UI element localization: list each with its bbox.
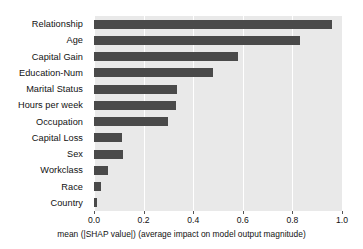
bar [94,182,101,191]
bar [94,117,168,126]
y-axis-tick-label: Race [0,179,88,195]
x-axis-tick-label: 0.6 [237,215,249,225]
y-axis-tick-label: Workclass [0,162,88,178]
bar [94,150,123,159]
x-tick-mark [292,211,293,214]
bar-row [94,195,342,211]
bar-row [94,32,342,48]
y-axis-tick-label: Sex [0,146,88,162]
bar [94,101,176,110]
x-axis-title: mean (|SHAP value|) (average impact on m… [0,229,363,239]
x-axis-tick-label: 0.2 [138,215,150,225]
x-tick-mark [94,211,95,214]
x-axis-tick-label: 0.8 [286,215,298,225]
x-axis-ticks: 0.00.20.40.60.81.0 [94,211,342,227]
plot-area [94,16,342,211]
y-axis-tick-labels: RelationshipAgeCapital GainEducation-Num… [0,16,88,211]
y-axis-tick-label: Capital Gain [0,49,88,65]
bar-row [94,162,342,178]
x-tick-mark [342,211,343,214]
bar-row [94,130,342,146]
y-axis-tick-label: Hours per week [0,97,88,113]
y-axis-tick-label: Relationship [0,16,88,32]
y-axis-tick-label: Capital Loss [0,130,88,146]
y-axis-tick-label: Occupation [0,114,88,130]
bar [94,36,300,45]
y-axis-tick-label: Age [0,32,88,48]
bar-row [94,97,342,113]
x-tick-mark [243,211,244,214]
bar-row [94,179,342,195]
y-axis-tick-label: Marital Status [0,81,88,97]
bar [94,198,97,207]
bar-series [94,16,342,211]
bar [94,52,238,61]
x-axis-tick-label: 0.4 [187,215,199,225]
bar-row [94,49,342,65]
x-tick-mark [193,211,194,214]
bar-row [94,65,342,81]
bar [94,133,122,142]
bar [94,68,213,77]
x-axis-tick-label: 0.0 [88,215,100,225]
bar-row [94,16,342,32]
bar-row [94,146,342,162]
x-tick-mark [144,211,145,214]
shap-feature-importance-chart: RelationshipAgeCapital GainEducation-Num… [0,0,363,249]
bar-row [94,81,342,97]
x-axis-tick-label: 1.0 [336,215,348,225]
bar [94,166,108,175]
y-axis-tick-label: Education-Num [0,65,88,81]
bar [94,85,177,94]
y-axis-tick-label: Country [0,195,88,211]
bar-row [94,114,342,130]
bar [94,20,332,29]
